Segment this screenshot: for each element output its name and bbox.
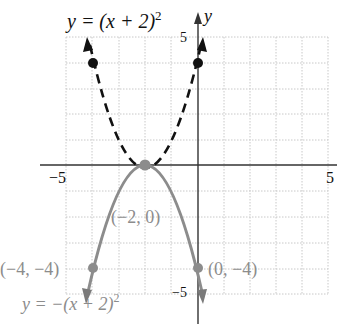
y-axis-arrow-icon <box>194 12 202 24</box>
axes <box>40 20 337 324</box>
y-max-label: 5 <box>180 30 187 45</box>
point-0-neg4 <box>193 263 203 273</box>
right-point-label: (0, −4) <box>208 259 257 280</box>
point-0-4 <box>193 58 203 68</box>
top-equation: y = (x + 2)2 <box>65 8 162 33</box>
vertex-label: (−2, 0) <box>111 207 160 228</box>
bottom-equation: y = −(x + 2)2 <box>20 291 119 315</box>
graph-canvas: y = (x + 2)2 y 5 −5 5 −5 (−2, 0) (−4, −4… <box>0 0 337 324</box>
y-axis-label: y <box>202 6 212 26</box>
left-point-label: (−4, −4) <box>0 259 59 280</box>
x-min-label: −5 <box>49 169 66 186</box>
point-neg4-4 <box>88 58 98 68</box>
point-vertex <box>140 160 151 171</box>
x-max-label: 5 <box>326 169 334 186</box>
point-neg4-neg4 <box>88 263 98 273</box>
y-min-label: −5 <box>172 285 187 300</box>
